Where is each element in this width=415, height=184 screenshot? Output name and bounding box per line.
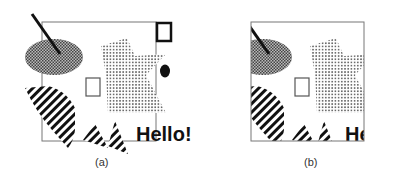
thick-square-clipped [366,23,380,41]
striped-triangle-1 [83,124,108,148]
black-dot [160,65,170,78]
panel-b: Hello! (b) [210,0,415,184]
striped-triangle-1-clipped [292,124,317,148]
panel-a: Hello! (a) [0,0,210,184]
hello-text-clipped: Hello! [345,123,401,145]
striped-triangle-2 [108,121,128,154]
striped-blob [25,86,75,148]
small-open-rectangle-clipped [295,78,309,96]
striped-triangle-2-clipped [317,121,337,154]
hello-text: Hello! [136,123,192,145]
caption-b: (b) [304,156,317,168]
striped-blob-clipped [234,86,284,148]
small-open-rectangle [86,78,100,96]
thick-square [157,23,171,41]
dotted-polygon-clipped [310,38,375,113]
caption-a: (a) [95,156,108,168]
